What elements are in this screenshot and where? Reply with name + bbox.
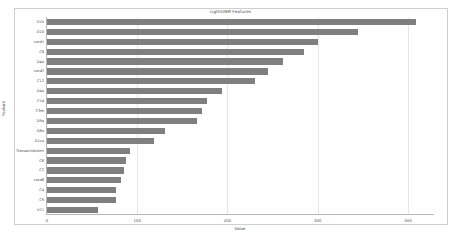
bar-row: C6: [47, 157, 434, 163]
bar-row: D9a: [47, 118, 434, 124]
bar-row: D10: [47, 29, 434, 35]
y-axis-tick-label: D10: [37, 30, 44, 34]
chart-figure: LightGBM Features Feature D15D10card1C8D…: [0, 0, 461, 243]
y-axis-tick-label: C3m: [36, 109, 44, 113]
bar: [47, 148, 130, 154]
y-axis-tick-label: C6: [39, 159, 44, 163]
bar: [47, 207, 98, 213]
bar: [47, 197, 116, 203]
bar-row: C4: [47, 187, 434, 193]
bar: [47, 88, 222, 94]
plot-area: D15D10card1C8D4acard2C12D4aC14C3mD9aD8aD…: [46, 17, 434, 215]
bar-row: card6: [47, 177, 434, 183]
bar: [47, 138, 154, 144]
y-axis-label: Feature: [1, 101, 6, 116]
bar-row: card1: [47, 39, 434, 45]
x-axis-tick-label: 0: [46, 215, 48, 223]
y-axis-tick-label: D8a: [37, 129, 44, 133]
bar: [47, 98, 207, 104]
y-axis-tick-label: C8: [39, 50, 44, 54]
bar: [47, 49, 304, 55]
y-axis-tick-label: C9: [39, 198, 44, 202]
bar-row: D4a: [47, 58, 434, 64]
bar: [47, 78, 255, 84]
y-axis-tick-label: V71: [37, 208, 44, 212]
bar: [47, 108, 202, 114]
y-axis-tick-label: C14: [37, 99, 44, 103]
x-axis-label: Value: [46, 226, 434, 231]
bar-row: D15: [47, 19, 434, 25]
chart-title: LightGBM Features: [0, 9, 461, 14]
y-axis-tick-label: C4: [39, 188, 44, 192]
bar-row: C12: [47, 78, 434, 84]
x-axis-tick-label: 100: [134, 215, 141, 223]
bar: [47, 167, 124, 173]
y-axis-tick-label: card6: [34, 178, 44, 182]
bar: [47, 128, 165, 134]
bar: [47, 177, 121, 183]
y-axis-tick-label: C12: [37, 79, 44, 83]
y-axis-tick-label: D15: [37, 20, 44, 24]
figure-top-margin: [0, 0, 461, 7]
x-axis-tick-label: 400: [404, 215, 411, 223]
y-axis-tick-label: D1ca: [35, 139, 44, 143]
y-axis-tick-label: D9a: [37, 119, 44, 123]
bar: [47, 118, 197, 124]
y-axis-tick-label: card1: [34, 40, 44, 44]
y-axis-tick-label: C2: [39, 168, 44, 172]
bar: [47, 187, 116, 193]
x-axis-tick-label: 300: [314, 215, 321, 223]
bar-row: C14: [47, 98, 434, 104]
bar-row: TransactionAmt: [47, 148, 434, 154]
x-axis-tick-label: 200: [224, 215, 231, 223]
y-axis-tick-label: D4a: [37, 60, 44, 64]
y-axis-tick-label: TransactionAmt: [16, 149, 44, 153]
y-axis-tick-label: card2: [34, 69, 44, 73]
bar-row: D8a: [47, 128, 434, 134]
bar: [47, 157, 126, 163]
bar-row: D4a: [47, 88, 434, 94]
bar: [47, 19, 416, 25]
y-axis-tick-label: D4a: [37, 89, 44, 93]
bar: [47, 68, 268, 74]
bar-series: D15D10card1C8D4acard2C12D4aC14C3mD9aD8aD…: [47, 17, 434, 214]
bar: [47, 58, 283, 64]
bar: [47, 39, 318, 45]
bar-row: D1ca: [47, 138, 434, 144]
bar-row: C9: [47, 197, 434, 203]
bar-row: card2: [47, 68, 434, 74]
bar-row: C3m: [47, 108, 434, 114]
bar-row: C8: [47, 49, 434, 55]
bar-row: C2: [47, 167, 434, 173]
bar-row: V71: [47, 207, 434, 213]
bar: [47, 29, 358, 35]
